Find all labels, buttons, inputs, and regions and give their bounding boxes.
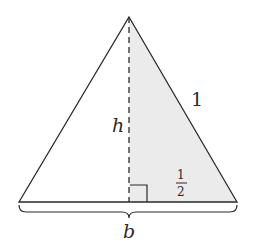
base-brace — [19, 205, 237, 218]
height-label: h — [112, 114, 124, 136]
triangle-diagram: h 1 1 2 b — [0, 0, 264, 252]
side-label: 1 — [191, 88, 203, 110]
base-label: b — [123, 220, 135, 242]
half-base-numerator: 1 — [177, 168, 185, 182]
half-base-denominator: 2 — [177, 185, 185, 199]
